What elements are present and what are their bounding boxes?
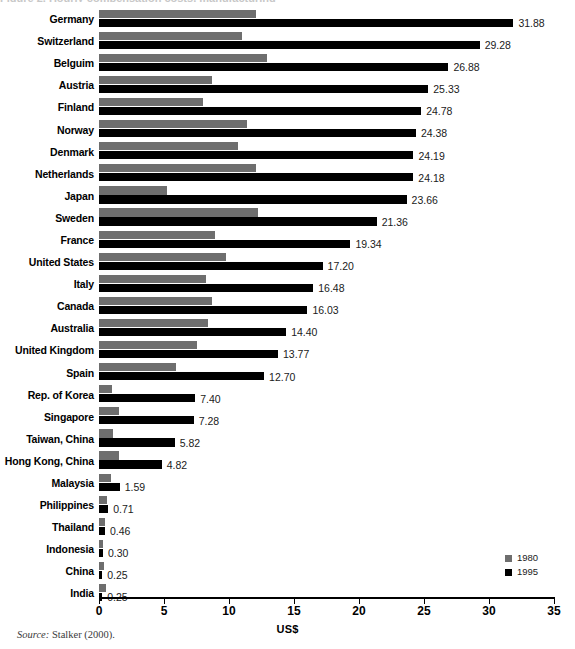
category-label: Rep. of Korea bbox=[28, 389, 94, 400]
category-label: United States bbox=[29, 257, 94, 268]
bar-1995 bbox=[99, 217, 377, 225]
x-axis-tick bbox=[99, 597, 100, 604]
legend-swatch-1980 bbox=[505, 555, 512, 562]
category-label: Austria bbox=[59, 80, 94, 91]
bar-group: 24.38 bbox=[99, 118, 575, 140]
value-label: 23.66 bbox=[412, 195, 438, 205]
bar-1995 bbox=[99, 372, 264, 380]
bar-group: 0.71 bbox=[99, 494, 575, 516]
bar-1995 bbox=[99, 240, 350, 248]
bar-1980 bbox=[99, 341, 197, 349]
bar-1980 bbox=[99, 474, 111, 482]
bar-1980 bbox=[99, 584, 106, 592]
x-axis-tick-label: 30 bbox=[482, 605, 495, 617]
category-label: Norway bbox=[57, 124, 94, 135]
x-axis-tick-label: 0 bbox=[96, 605, 103, 617]
x-axis-tick-label: 35 bbox=[547, 605, 560, 617]
bar-1980 bbox=[99, 451, 119, 459]
bar-1995 bbox=[99, 460, 162, 468]
chart-row: Austria25.33 bbox=[0, 74, 575, 96]
bar-group: 24.19 bbox=[99, 141, 575, 163]
category-label: Spain bbox=[66, 367, 94, 378]
bar-group: 12.70 bbox=[99, 362, 575, 384]
chart-row: Singapore7.28 bbox=[0, 406, 575, 428]
value-label: 24.19 bbox=[418, 151, 444, 161]
bar-1995 bbox=[99, 85, 428, 93]
bar-group: 4.82 bbox=[99, 450, 575, 472]
category-label: Hong Kong, China bbox=[5, 456, 94, 467]
x-axis-tick bbox=[294, 597, 295, 604]
x-axis-tick bbox=[229, 597, 230, 604]
bar-1980 bbox=[99, 407, 119, 415]
chart-row: Finland24.78 bbox=[0, 96, 575, 118]
value-label: 13.77 bbox=[283, 349, 309, 359]
x-axis-tick-label: 5 bbox=[161, 605, 168, 617]
value-label: 19.34 bbox=[355, 239, 381, 249]
source-prefix: Source: bbox=[17, 629, 49, 640]
bar-1980 bbox=[99, 120, 247, 128]
x-axis-tick-label: 25 bbox=[417, 605, 430, 617]
chart-row: Sweden21.36 bbox=[0, 207, 575, 229]
bar-1995 bbox=[99, 350, 278, 358]
value-label: 0.71 bbox=[113, 504, 133, 514]
bar-1980 bbox=[99, 275, 206, 283]
bar-1980 bbox=[99, 142, 238, 150]
bar-group: 16.48 bbox=[99, 273, 575, 295]
chart-row: Italy16.48 bbox=[0, 273, 575, 295]
bar-1995 bbox=[99, 195, 407, 203]
bar-1995 bbox=[99, 416, 194, 424]
chart-row: United States17.20 bbox=[0, 251, 575, 273]
bar-1995 bbox=[99, 284, 313, 292]
chart-row: Spain12.70 bbox=[0, 362, 575, 384]
bar-1980 bbox=[99, 10, 256, 18]
chart-row: Switzerland29.28 bbox=[0, 30, 575, 52]
bar-group: 13.77 bbox=[99, 339, 575, 361]
category-label: China bbox=[66, 566, 94, 577]
value-label: 31.88 bbox=[518, 18, 544, 28]
bar-1980 bbox=[99, 76, 212, 84]
chart-row: Hong Kong, China4.82 bbox=[0, 450, 575, 472]
bar-1980 bbox=[99, 363, 176, 371]
bar-group: 14.40 bbox=[99, 317, 575, 339]
bar-1980 bbox=[99, 208, 258, 216]
chart-row: Denmark24.19 bbox=[0, 141, 575, 163]
category-label: Netherlands bbox=[35, 168, 94, 179]
bar-1980 bbox=[99, 253, 226, 261]
bar-1995 bbox=[99, 129, 416, 137]
bar-group: 0.25 bbox=[99, 582, 575, 604]
value-label: 0.46 bbox=[110, 526, 130, 536]
bar-group: 17.20 bbox=[99, 251, 575, 273]
bar-1995 bbox=[99, 549, 103, 557]
value-label: 16.48 bbox=[318, 283, 344, 293]
bar-group: 21.36 bbox=[99, 207, 575, 229]
value-label: 16.03 bbox=[312, 305, 338, 315]
bar-1980 bbox=[99, 98, 203, 106]
category-label: Philippines bbox=[40, 500, 94, 511]
x-axis-tick bbox=[554, 597, 555, 604]
bar-group: 1.59 bbox=[99, 472, 575, 494]
value-label: 1.59 bbox=[125, 482, 145, 492]
bar-group: 31.88 bbox=[99, 8, 575, 30]
value-label: 14.40 bbox=[291, 327, 317, 337]
legend-label-1980: 1980 bbox=[517, 551, 538, 565]
bar-1980 bbox=[99, 231, 215, 239]
chart-row: Netherlands24.18 bbox=[0, 163, 575, 185]
bar-1980 bbox=[99, 562, 104, 570]
chart-row: Indonesia0.30 bbox=[0, 538, 575, 560]
bar-1995 bbox=[99, 41, 480, 49]
legend-item-1995: 1995 bbox=[505, 565, 538, 579]
chart-row: China0.25 bbox=[0, 560, 575, 582]
bar-group: 5.82 bbox=[99, 428, 575, 450]
bar-group: 7.40 bbox=[99, 384, 575, 406]
bar-1980 bbox=[99, 385, 112, 393]
value-label: 17.20 bbox=[328, 261, 354, 271]
bar-1980 bbox=[99, 540, 103, 548]
hourly-compensation-bar-chart: Figure 2. Hourly compensation costs, man… bbox=[0, 0, 575, 649]
bar-1995 bbox=[99, 19, 513, 27]
bar-1995 bbox=[99, 328, 286, 336]
category-label: Belguim bbox=[54, 58, 94, 69]
chart-row: Canada16.03 bbox=[0, 295, 575, 317]
value-label: 5.82 bbox=[180, 438, 200, 448]
chart-row: Belguim26.88 bbox=[0, 52, 575, 74]
chart-row: Australia14.40 bbox=[0, 317, 575, 339]
